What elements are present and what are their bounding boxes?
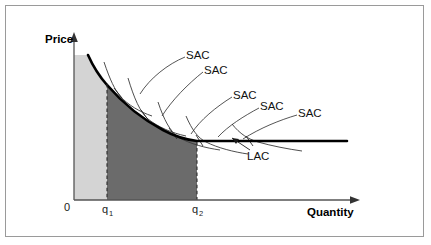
leader-line-sac-2	[162, 72, 203, 116]
leader-line-sac-5	[243, 115, 297, 139]
sac-curve-5	[232, 124, 302, 151]
x-axis-title: Quantity	[307, 206, 354, 218]
sac-label-4: SAC	[260, 100, 284, 112]
light-region	[74, 55, 107, 200]
tick-sub-q2: 2	[199, 209, 203, 218]
sac-label-3: SAC	[233, 89, 257, 101]
plot-svg: Price Quantity 0 q 1 q 2 SAC SAC SAC SAC…	[0, 0, 431, 245]
sac-label-1: SAC	[186, 49, 210, 61]
origin-label: 0	[64, 201, 70, 213]
sac-label-2: SAC	[204, 64, 228, 76]
tick-label-q1: q	[102, 203, 108, 215]
tick-label-q2: q	[192, 203, 198, 215]
y-axis-title: Price	[45, 33, 73, 45]
tick-sub-q1: 1	[109, 209, 113, 218]
leader-line-sac-1	[140, 57, 185, 94]
leader-line-sac-3	[191, 97, 232, 134]
figure-container: Price Quantity 0 q 1 q 2 SAC SAC SAC SAC…	[0, 0, 431, 245]
lac-label: LAC	[247, 150, 269, 162]
sac-label-5: SAC	[298, 107, 322, 119]
